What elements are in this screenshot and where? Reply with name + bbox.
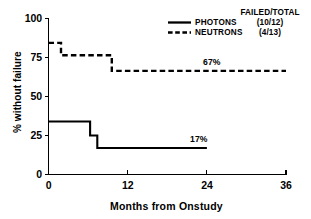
x-tick-label-0: 0 bbox=[39, 180, 59, 191]
legend-label-photons: PHOTONS bbox=[195, 19, 237, 27]
x-tick-label-36: 36 bbox=[276, 180, 296, 191]
legend-stat-photons: (10/12) bbox=[234, 19, 306, 27]
series-photons-curve bbox=[49, 122, 207, 149]
series-neutrons-curve bbox=[49, 43, 287, 71]
x-tick-label-12: 12 bbox=[118, 180, 138, 191]
x-tick-label-24: 24 bbox=[197, 180, 217, 191]
y-axis-title: % without failure bbox=[13, 51, 23, 133]
legend-stat-neutrons: (4/13) bbox=[234, 29, 306, 37]
y-tick-label-0: 0 bbox=[16, 169, 42, 180]
annotation-neutrons-final: 67% bbox=[203, 58, 221, 67]
x-axis-title: Months from Onstudy bbox=[110, 201, 223, 212]
kaplan-meier-chart: 100 75 50 25 0 0 12 24 36 % without fail… bbox=[0, 0, 311, 219]
legend-header: FAILED/TOTAL bbox=[234, 9, 306, 17]
annotation-photons-final: 17% bbox=[190, 135, 208, 144]
y-tick-label-100: 100 bbox=[16, 13, 42, 24]
